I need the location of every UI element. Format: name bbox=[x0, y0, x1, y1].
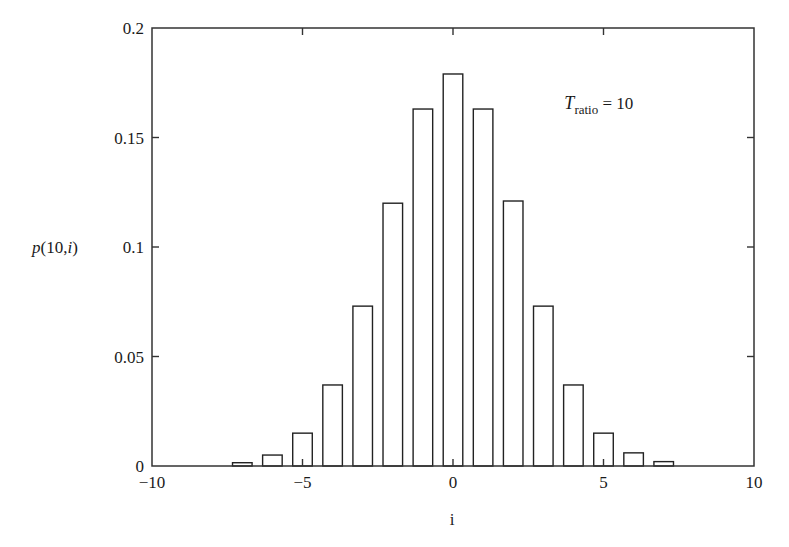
t-ratio-annotation: Tratio = 10 bbox=[564, 93, 633, 117]
bar-i-6 bbox=[624, 453, 644, 466]
x-axis-label: i bbox=[450, 510, 455, 529]
bars-group bbox=[233, 74, 674, 466]
bar-i--3 bbox=[353, 306, 373, 466]
y-tick-label: 0.15 bbox=[114, 129, 144, 148]
bar-i-1 bbox=[473, 109, 493, 466]
bar-chart: −10−50510 00.050.10.150.2 i p(10,i) Trat… bbox=[0, 0, 789, 547]
x-tick-labels: −10−50510 bbox=[139, 473, 763, 492]
bar-i--2 bbox=[383, 203, 403, 466]
x-tick-label: 0 bbox=[449, 473, 458, 492]
y-tick-label: 0.05 bbox=[114, 348, 144, 367]
bar-i-0 bbox=[443, 74, 463, 466]
bar-i-2 bbox=[503, 201, 523, 466]
x-tick-label: 5 bbox=[599, 473, 608, 492]
y-tick-label: 0 bbox=[136, 457, 145, 476]
x-tick-label: 10 bbox=[746, 473, 763, 492]
bar-i--1 bbox=[413, 109, 433, 466]
bar-i--4 bbox=[323, 385, 343, 466]
y-axis-label: p(10,i) bbox=[31, 238, 78, 257]
x-tick-label: −5 bbox=[293, 473, 311, 492]
bar-i-4 bbox=[564, 385, 584, 466]
bar-i-3 bbox=[534, 306, 554, 466]
y-tick-label: 0.1 bbox=[123, 238, 144, 257]
y-tick-label: 0.2 bbox=[123, 19, 144, 38]
y-tick-labels: 00.050.10.150.2 bbox=[114, 19, 144, 476]
bar-i--6 bbox=[263, 455, 283, 466]
